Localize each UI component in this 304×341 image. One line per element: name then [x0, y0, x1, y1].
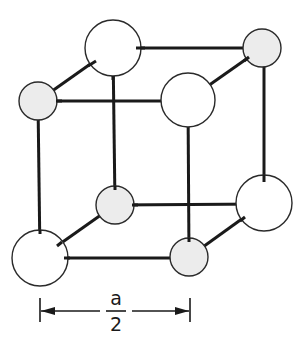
cube-edges — [38, 48, 264, 258]
arrowhead-left-icon — [41, 307, 55, 315]
dimension-a-over-2: a 2 — [40, 287, 190, 335]
atoms — [12, 20, 292, 286]
atom-large-bottom-back-right — [236, 175, 292, 231]
unit-cell-diagram: a 2 — [0, 0, 304, 341]
atom-large-top-front-right — [161, 73, 215, 127]
atom-small-bottom-front-right — [170, 238, 208, 276]
atom-small-top-front-left — [19, 82, 57, 120]
atom-large-top-back-left — [85, 20, 141, 76]
atom-small-top-back-right — [243, 29, 281, 67]
atom-small-bottom-back-left — [96, 186, 134, 224]
atom-large-bottom-front-left — [12, 230, 68, 286]
dimension-numerator: a — [110, 287, 122, 309]
arrowhead-right-icon — [175, 307, 189, 315]
dimension-denominator: 2 — [110, 313, 122, 335]
